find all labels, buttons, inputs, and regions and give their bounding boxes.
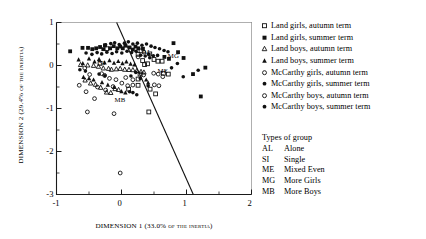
group-code: MB: [262, 187, 284, 196]
legend-item-label: McCarthy boys, summer term: [271, 102, 371, 111]
legend-item: McCarthy boys, autumn term: [258, 90, 424, 102]
group-type-row: ALAlone: [262, 144, 422, 155]
group-code: SI: [262, 155, 284, 164]
group-name: Single: [284, 155, 305, 164]
y-tick-label: 0: [41, 60, 54, 70]
open-circle-icon: [258, 68, 271, 77]
filled-triangle-icon: [258, 56, 271, 65]
legend-item: Land girls, summer term: [258, 32, 424, 44]
group-name: More Girls: [284, 176, 321, 185]
open-square-icon: [258, 21, 271, 30]
x-tick-label: 0: [118, 198, 122, 208]
filled-circle-icon: [258, 79, 271, 88]
y-tick-label: -3: [41, 189, 54, 199]
open-circle-icon: [258, 91, 271, 100]
annotation-al: AL: [142, 48, 151, 55]
legend-item: McCarthy boys, summer term: [258, 101, 424, 113]
group-type-row: MGMore Girls: [262, 176, 422, 187]
annotation-si: SI: [99, 59, 105, 66]
legend-item-label: McCarthy girls, autumn term: [271, 68, 368, 77]
legend-item: Land boys, autumn term: [258, 43, 424, 55]
y-axis-title: DIMENSION 2 (29.4% of the inertia): [17, 10, 25, 200]
legend-item-label: Land girls, autumn term: [271, 21, 351, 30]
legend-item: McCarthy girls, summer term: [258, 78, 424, 90]
filled-square-icon: [258, 33, 271, 42]
open-triangle-icon: [258, 44, 271, 53]
x-tick-label: 1: [183, 198, 187, 208]
y-tick-label: -2: [41, 146, 54, 156]
series-open-circle: [100, 71, 165, 87]
group-name: More Boys: [284, 187, 321, 196]
annotation-me: ME: [157, 67, 168, 74]
x-tick-label: -1: [53, 198, 60, 208]
series-legend: Land girls, autumn termLand girls, summe…: [258, 20, 424, 113]
legend-item-label: McCarthy boys, autumn term: [271, 91, 369, 100]
filled-circle-icon: [258, 102, 271, 111]
group-code: ME: [262, 165, 284, 174]
group-type-row: SISingle: [262, 155, 422, 166]
legend-item-label: Land boys, summer term: [271, 56, 354, 65]
group-types-legend: Types of group ALAloneSISingleMEMixed Ev…: [262, 133, 422, 197]
x-tick-label: 2: [248, 198, 252, 208]
legend-item: Land boys, summer term: [258, 55, 424, 67]
legend-item-label: Land girls, summer term: [271, 33, 353, 42]
legend-item: McCarthy girls, autumn term: [258, 66, 424, 78]
figure: DIMENSION 2 (29.4% of the inertia) DIMEN…: [0, 0, 426, 239]
group-code: AL: [262, 144, 284, 153]
y-tick-label: 1: [41, 17, 54, 27]
y-tick-label: -1: [41, 103, 54, 113]
legend-item-label: McCarthy girls, summer term: [271, 79, 370, 88]
group-name: Mixed Even: [284, 165, 325, 174]
annotation-mg: MG: [168, 52, 179, 59]
group-code: MG: [262, 176, 284, 185]
group-name: Alone: [284, 144, 304, 153]
legend-item: Land girls, autumn term: [258, 20, 424, 32]
legend-item-label: Land boys, autumn term: [271, 44, 352, 53]
group-types-heading: Types of group: [262, 133, 422, 142]
annotation-mb: MB: [115, 96, 126, 103]
group-type-row: MEMixed Even: [262, 165, 422, 176]
data-points: [68, 40, 207, 175]
x-axis-title: DIMENSION 1 (33.0% of the inertia): [56, 222, 252, 230]
group-type-row: MBMore Boys: [262, 187, 422, 198]
